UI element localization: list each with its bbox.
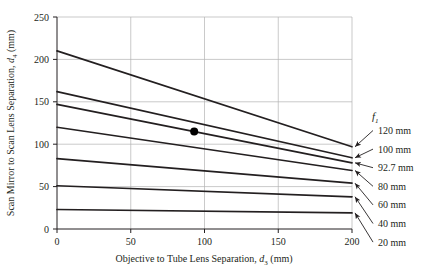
- y-tick-label: 100: [34, 139, 49, 150]
- legend-arrow: [355, 170, 373, 186]
- axis-unit: (mm): [268, 253, 293, 265]
- x-tick-label: 50: [126, 236, 136, 247]
- legend-label: 20 mm: [378, 237, 406, 248]
- x-tick-label: 200: [345, 236, 360, 247]
- legend-label: 92.7 mm: [378, 162, 414, 173]
- legend-label: 60 mm: [378, 199, 406, 210]
- legend-arrow: [355, 149, 373, 158]
- x-tick-label: 150: [271, 236, 286, 247]
- x-tick-label: 0: [55, 236, 60, 247]
- chart-svg: 050100150200 050100150200250 120 mm100 m…: [0, 0, 432, 274]
- y-tick-label: 150: [34, 96, 49, 107]
- legend-arrow: [355, 183, 373, 205]
- legend-title: f1: [372, 110, 379, 125]
- y-axis-title: Scan Mirror to Scan Lens Separation, d4 …: [5, 30, 19, 216]
- y-tick-label: 50: [39, 181, 49, 192]
- x-axis-ticks: [57, 229, 352, 233]
- legend-arrow: [355, 131, 373, 147]
- legend-arrow: [355, 197, 373, 224]
- x-axis-title: Objective to Tube Lens Separation, d3 (m…: [115, 253, 292, 267]
- legend-label: 40 mm: [378, 218, 406, 229]
- legend-label: 100 mm: [378, 144, 411, 155]
- legend-arrow: [355, 163, 373, 168]
- y-tick-label: 250: [34, 12, 49, 23]
- legend-label: 120 mm: [378, 125, 411, 136]
- data-point-markers: [190, 127, 198, 135]
- legend-title-subscript: 1: [375, 117, 379, 125]
- data-point-marker: [190, 127, 198, 135]
- x-axis-tick-labels: 050100150200: [55, 236, 360, 247]
- y-tick-label: 200: [34, 54, 49, 65]
- x-tick-label: 100: [197, 236, 212, 247]
- y-axis-tick-labels: 050100150200250: [34, 12, 49, 235]
- legend-labels: 120 mm100 mm92.7 mm80 mm60 mm40 mm20 mm: [378, 125, 414, 248]
- y-axis-ticks: [53, 17, 57, 229]
- y-tick-label: 0: [44, 224, 49, 235]
- chart-figure: 050100150200 050100150200250 120 mm100 m…: [0, 0, 432, 274]
- axis-unit: (mm): [5, 30, 17, 55]
- legend-arrows: [355, 131, 373, 243]
- legend-label: 80 mm: [378, 181, 406, 192]
